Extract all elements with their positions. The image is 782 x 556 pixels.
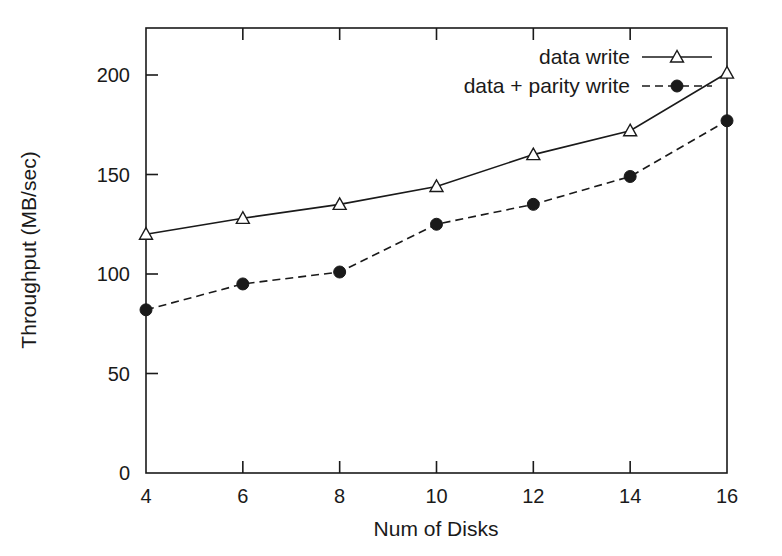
- plot-frame: [146, 28, 727, 473]
- y-tick-label: 0: [119, 462, 130, 484]
- y-tick-label: 200: [97, 64, 130, 86]
- legend-label-0: data write: [539, 45, 630, 68]
- x-axis-title: Num of Disks: [374, 517, 499, 540]
- series-line: [146, 121, 727, 310]
- x-tick-label: 14: [619, 485, 641, 507]
- marker-filled-circle: [624, 170, 636, 182]
- series-0: [140, 67, 734, 240]
- line-chart: 050100150200 46810121416 data writedata …: [0, 0, 782, 556]
- marker-filled-circle: [671, 80, 683, 92]
- chart-container: 050100150200 46810121416 data writedata …: [0, 0, 782, 556]
- x-tick-label: 4: [140, 485, 151, 507]
- marker-filled-circle: [431, 218, 443, 230]
- x-tick-label: 6: [237, 485, 248, 507]
- x-axis-tick-labels: 46810121416: [140, 485, 738, 507]
- marker-open-triangle: [721, 67, 734, 79]
- y-axis-ticks: [146, 75, 158, 374]
- legend-label-1: data + parity write: [464, 74, 630, 97]
- data-series-layer: [140, 67, 734, 316]
- x-tick-label: 8: [334, 485, 345, 507]
- series-line: [146, 73, 727, 234]
- series-1: [140, 115, 733, 316]
- y-axis-tick-labels: 050100150200: [97, 64, 130, 484]
- y-axis-title: Throughput (MB/sec): [17, 151, 40, 348]
- marker-filled-circle: [140, 304, 152, 316]
- marker-filled-circle: [527, 198, 539, 210]
- chart-legend: data writedata + parity write: [464, 45, 712, 97]
- marker-filled-circle: [237, 278, 249, 290]
- marker-filled-circle: [334, 266, 346, 278]
- x-tick-label: 10: [425, 485, 447, 507]
- y-tick-label: 50: [108, 363, 130, 385]
- x-tick-label: 12: [522, 485, 544, 507]
- marker-open-triangle: [624, 124, 637, 136]
- y-tick-label: 150: [97, 164, 130, 186]
- x-tick-label: 16: [716, 485, 738, 507]
- marker-filled-circle: [721, 115, 733, 127]
- y-tick-label: 100: [97, 263, 130, 285]
